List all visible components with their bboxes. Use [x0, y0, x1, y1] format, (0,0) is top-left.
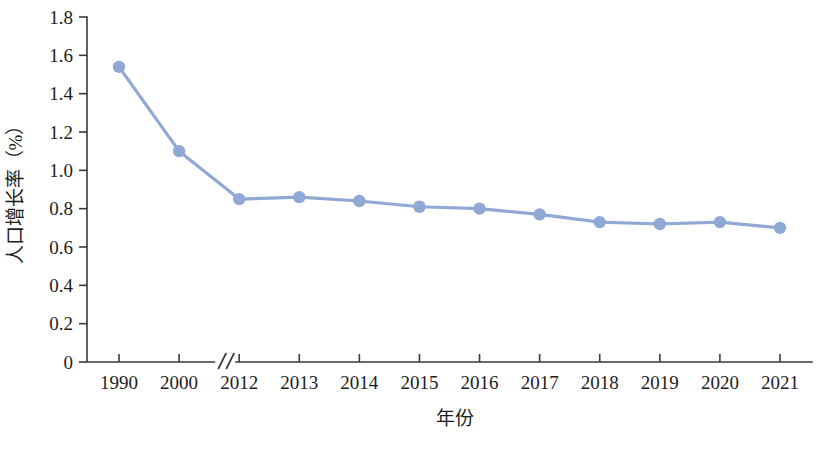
x-axis-tick-label: 2015: [400, 372, 438, 393]
series-data-point: [173, 145, 185, 157]
x-axis-break-symbol: [215, 353, 235, 369]
x-axis-tick-label: 2020: [701, 372, 739, 393]
x-axis-tick-label: 2019: [641, 372, 679, 393]
x-axis-tick-label: 2013: [280, 372, 318, 393]
y-axis-tick-label: 1.6: [49, 45, 73, 66]
y-axis-tick-label: 0.6: [49, 237, 73, 258]
y-axis-tick-labels: 00.20.40.60.81.01.21.41.61.8: [49, 7, 73, 373]
x-axis-tick-label: 2014: [340, 372, 379, 393]
series-data-point: [533, 208, 545, 220]
y-axis-tick-label: 0.8: [49, 198, 73, 219]
y-axis-tick-label: 1.4: [49, 83, 73, 104]
series-data-point: [774, 222, 786, 234]
series-data-point: [293, 191, 305, 203]
y-axis-tick-label: 1.0: [49, 160, 73, 181]
series-data-point: [714, 216, 726, 228]
y-axis-tick-label: 1.8: [49, 7, 73, 28]
y-axis-title: 人口增长率（%）: [5, 116, 26, 265]
x-axis-tick-label: 1990: [100, 372, 138, 393]
series-data-point: [353, 195, 365, 207]
x-axis-tick-label: 2012: [220, 372, 258, 393]
series-data-point: [473, 202, 485, 214]
series-line-population-growth-rate: [119, 67, 780, 228]
x-axis-title: 年份: [436, 408, 474, 429]
x-axis-tick-label: 2021: [761, 372, 799, 393]
series-data-point: [413, 201, 425, 213]
x-axis-tick-label: 2016: [461, 372, 499, 393]
series-data-point: [113, 61, 125, 73]
x-axis-tick-label: 2000: [160, 372, 198, 393]
x-axis-tick-label: 2017: [521, 372, 559, 393]
y-axis-tick-label: 0: [64, 352, 74, 373]
x-axis-tick-label: 2018: [581, 372, 619, 393]
y-axis-tick-label: 1.2: [49, 122, 73, 143]
y-axis-tick-label: 0.4: [49, 275, 73, 296]
x-axis-tick-labels: 1990200020122013201420152016201720182019…: [100, 372, 799, 393]
axis-lines: [79, 17, 812, 362]
y-axis-tick-label: 0.2: [49, 313, 73, 334]
series-data-point: [594, 216, 606, 228]
population-growth-rate-chart: 人口增长率（%） 年份 00.20.40.60.81.01.21.41.61.8…: [0, 0, 822, 452]
chart-plot-area: 人口增长率（%） 年份 00.20.40.60.81.01.21.41.61.8…: [0, 0, 822, 452]
series-data-point: [654, 218, 666, 230]
series-data-point: [233, 193, 245, 205]
